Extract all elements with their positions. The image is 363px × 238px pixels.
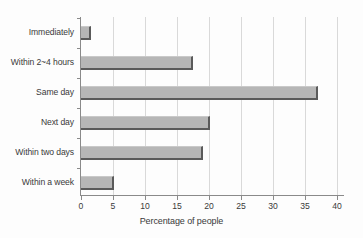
x-axis-tick-label: 0 (79, 201, 84, 211)
y-axis-label: Same day (36, 87, 74, 97)
gridline-40 (337, 17, 338, 195)
y-axis-tick (77, 108, 81, 109)
x-axis-tick (273, 196, 274, 200)
bar (81, 116, 210, 130)
x-axis-tick-label: 40 (332, 201, 342, 211)
x-axis-tick (81, 196, 82, 200)
x-axis-title: Percentage of people (0, 216, 363, 226)
y-axis-label: Within 2~4 hours (11, 57, 74, 67)
x-axis-tick (305, 196, 306, 200)
x-axis-tick-label: 30 (268, 201, 278, 211)
x-axis-tick-label: 35 (300, 201, 310, 211)
y-axis-label: Next day (41, 117, 74, 127)
bar-row (81, 47, 337, 77)
y-axis-label: Within a week (22, 177, 74, 187)
bar-row (81, 77, 337, 107)
bar (81, 26, 91, 40)
x-axis-tick (241, 196, 242, 200)
y-axis-tick (77, 168, 81, 169)
y-axis-tick (77, 18, 81, 19)
bar-row (81, 17, 337, 47)
bar (81, 146, 203, 160)
bar (81, 56, 193, 70)
x-axis-tick-label: 10 (140, 201, 150, 211)
bar-chart-figure: ImmediatelyWithin 2~4 hoursSame dayNext … (0, 0, 363, 238)
plot-area (81, 17, 337, 195)
x-axis-tick (209, 196, 210, 200)
x-axis-tick (113, 196, 114, 200)
y-axis-line (80, 17, 81, 196)
y-axis-tick (77, 48, 81, 49)
x-axis-tick-label: 25 (236, 201, 246, 211)
y-axis-label: Within two days (15, 147, 74, 157)
bar (81, 86, 318, 100)
x-axis-tick-label: 5 (111, 201, 116, 211)
y-axis-label: Immediately (29, 27, 74, 37)
bar-row (81, 167, 337, 197)
x-axis-tick (145, 196, 146, 200)
bar (81, 176, 114, 190)
x-axis-tick (337, 196, 338, 200)
x-axis-tick (177, 196, 178, 200)
y-axis-tick (77, 78, 81, 79)
bar-row (81, 137, 337, 167)
bar-row (81, 107, 337, 137)
x-axis-tick-label: 15 (172, 201, 182, 211)
x-axis-tick-label: 20 (204, 201, 214, 211)
y-axis-tick (77, 138, 81, 139)
